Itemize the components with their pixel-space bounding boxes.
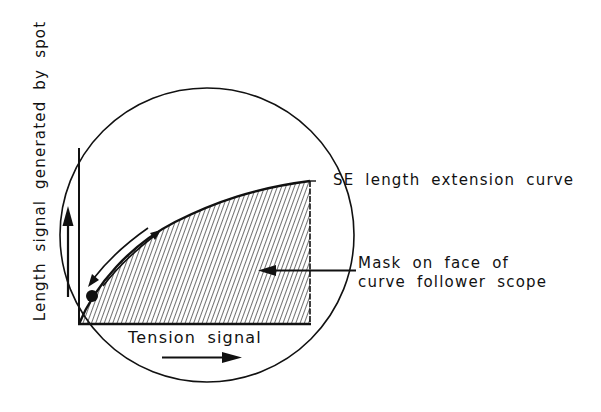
- mask-label-line1: Mask on face of: [358, 254, 547, 273]
- y-axis-label: Length signal generated by spot: [31, 21, 49, 322]
- mask-region: [79, 175, 314, 327]
- tension-right-arrow-icon: [162, 352, 242, 363]
- mask-label: Mask on face of curve follower scope: [358, 254, 547, 292]
- length-up-arrow-icon: [63, 206, 74, 297]
- mask-label-line2: curve follower scope: [358, 273, 547, 292]
- curve-follower-diagram: [0, 0, 601, 412]
- curve-label: SE length extension curve: [333, 171, 574, 189]
- x-axis-label: Tension signal: [128, 328, 262, 347]
- spot-dot: [86, 290, 98, 302]
